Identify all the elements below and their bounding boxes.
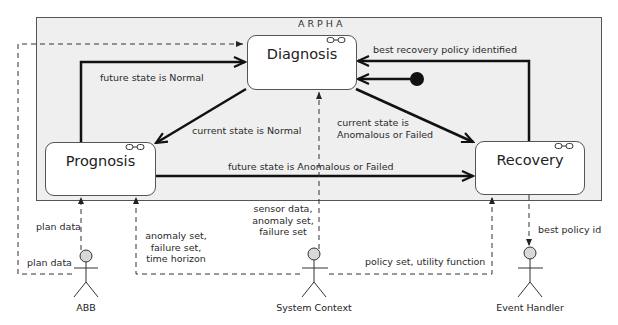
label-best-policy-id: best policy id xyxy=(538,224,601,236)
link-icon xyxy=(125,143,145,151)
state-recovery-label: Recovery xyxy=(476,152,584,168)
actor-abb-label: ABB xyxy=(66,302,106,313)
label-context-prognosis-1: anomaly set, xyxy=(143,230,209,242)
label-context-diagnosis-2: anomaly set, xyxy=(250,215,316,227)
link-icon xyxy=(554,142,574,150)
state-diagnosis[interactable]: Diagnosis xyxy=(247,35,357,90)
label-context-diagnosis-1: sensor data, xyxy=(250,203,316,215)
label-current-state-anomalous-2: Anomalous or Failed xyxy=(337,129,433,141)
actor-event-handler-figure xyxy=(518,247,543,297)
initial-state-icon xyxy=(410,72,424,86)
label-context-prognosis-2: failure set, xyxy=(143,242,209,254)
state-prognosis-label: Prognosis xyxy=(46,153,155,169)
actor-event-handler-label: Event Handler xyxy=(495,302,565,313)
label-current-state-normal: current state is Normal xyxy=(192,125,301,137)
label-current-state-anomalous-1: current state is xyxy=(337,117,409,129)
label-context-prognosis-3: time horizon xyxy=(143,253,209,265)
label-future-state-anomalous: future state is Anomalous or Failed xyxy=(228,161,394,173)
actor-system-context-figure xyxy=(302,248,328,297)
label-policy-set: policy set, utility function xyxy=(365,256,485,268)
label-context-prognosis: anomaly set, failure set, time horizon xyxy=(143,230,209,265)
label-future-state-normal: future state is Normal xyxy=(100,72,204,84)
actor-abb-figure xyxy=(74,250,98,297)
state-prognosis[interactable]: Prognosis xyxy=(45,142,156,196)
link-icon xyxy=(326,36,346,44)
label-plan-data-diagnosis: plan data xyxy=(27,257,72,269)
label-context-diagnosis: sensor data, anomaly set, failure set xyxy=(250,203,316,238)
state-diagnosis-label: Diagnosis xyxy=(248,46,356,62)
label-plan-data-prognosis: plan data xyxy=(36,221,81,233)
label-best-recovery-policy: best recovery policy identified xyxy=(373,44,517,56)
state-recovery[interactable]: Recovery xyxy=(475,141,585,195)
label-context-diagnosis-3: failure set xyxy=(250,226,316,238)
actor-system-context-label: System Context xyxy=(269,302,359,313)
